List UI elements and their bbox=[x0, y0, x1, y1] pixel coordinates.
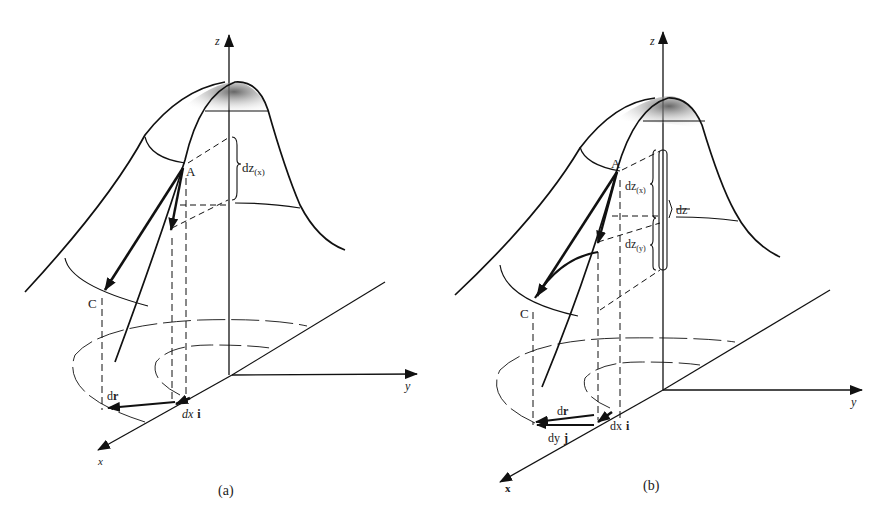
caption-a: (a) bbox=[218, 483, 234, 499]
arrow-a-dx-b bbox=[598, 172, 617, 243]
z-label-b: z bbox=[649, 34, 655, 48]
x-label-b: x bbox=[505, 482, 511, 494]
surface-front-profile-b bbox=[542, 98, 780, 387]
x-label-a: x bbox=[97, 455, 103, 467]
surface-back-ridge-b bbox=[455, 98, 655, 295]
panel-b: z y x A C dz(x) dz(y) dz dr dxi dyj (b) bbox=[455, 32, 862, 494]
point-a-label-a: A bbox=[186, 164, 196, 179]
panel-a: z y x A C dz(x) dr dxi (a) bbox=[25, 34, 417, 499]
brace-dz-x-b bbox=[650, 150, 656, 218]
dx-i-label-b: dxi bbox=[610, 419, 630, 433]
dr-label-a: dr bbox=[107, 389, 119, 403]
point-c-label-a: C bbox=[88, 296, 97, 311]
dz-label-b: dz bbox=[676, 203, 687, 217]
x-axis-a bbox=[98, 375, 232, 450]
caption-b: (b) bbox=[643, 478, 660, 494]
dz-y-label-b: dz(y) bbox=[625, 237, 646, 253]
dr-label-b: dr bbox=[557, 404, 569, 418]
dz-x-label-b: dz(x) bbox=[625, 179, 646, 195]
y-axis-a bbox=[232, 374, 417, 375]
dy-j-label-b: dyj bbox=[548, 431, 568, 445]
brace-dz-x-a bbox=[232, 137, 241, 200]
z-label-a: z bbox=[214, 34, 220, 48]
point-c-label-b: C bbox=[520, 306, 529, 321]
figure-canvas: z y x A C dz(x) dr dxi (a) bbox=[0, 0, 887, 517]
dz-x-label-a: dz(x) bbox=[242, 160, 265, 177]
x-axis-b bbox=[500, 390, 663, 482]
point-a-label-b: A bbox=[611, 156, 621, 171]
dx-i-label-a: dxi bbox=[182, 407, 201, 421]
y-label-b: y bbox=[850, 395, 857, 409]
arrow-a-to-c-b bbox=[537, 172, 617, 296]
y-label-a: y bbox=[404, 379, 411, 393]
